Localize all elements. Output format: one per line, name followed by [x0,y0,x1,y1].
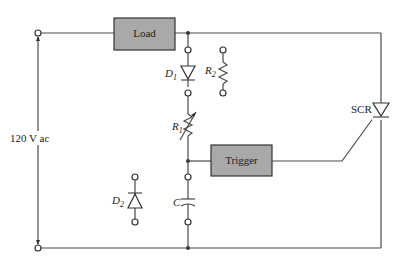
wire-gate [272,117,374,161]
terminal-top-left [35,30,41,36]
terminal-d1-bottom [185,90,191,96]
r1-label: R1 [171,120,183,135]
r2-label: R2 [204,64,216,79]
source-label: 120 V ac [10,132,49,144]
c-label: C [173,196,181,208]
terminal-c-top [185,174,191,180]
terminal-d1-top [185,47,191,53]
circuit-diagram: 120 V ac Load D1 R1 C R2 D2 Trigger [0,0,406,261]
trigger-label: Trigger [225,154,258,166]
d2-label: D2 [111,194,124,209]
terminal-c-bottom [185,219,191,225]
d1-label: D1 [164,67,177,82]
scr-label: SCR [351,103,372,115]
arrow-down-icon [36,240,40,245]
terminal-bottom-left [35,245,41,251]
terminal-r2-top [220,47,226,53]
terminal-d2-bottom [132,219,138,225]
diode-d2-icon [128,194,142,208]
diode-d1-icon [181,66,195,79]
terminal-d2-top [132,174,138,180]
arrow-up-icon [36,36,40,41]
resistor-r2-icon [219,62,227,84]
terminal-r2-bottom [220,90,226,96]
load-label: Load [133,27,156,39]
